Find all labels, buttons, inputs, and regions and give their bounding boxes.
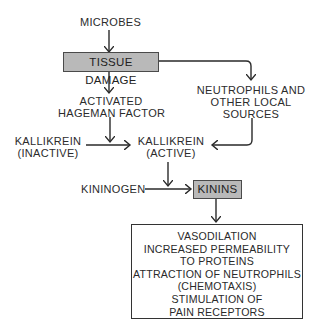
arrow-tissue-neutrophils: [157, 61, 251, 80]
arrow-neutrophils-kallikrein: [212, 118, 252, 145]
effect-permeability-cont: TO PROTEINS: [132, 255, 302, 268]
node-kallikrein-active: KALLIKREIN (ACTIVE): [135, 135, 207, 159]
node-neutrophils-local-sources: NEUTROPHILS AND OTHER LOCAL SOURCES: [196, 84, 306, 120]
effect-chemotaxis: (CHEMOTAXIS): [132, 280, 302, 293]
effect-permeability: INCREASED PERMEABILITY: [132, 243, 302, 256]
effect-vasodilation: VASODILATION: [132, 230, 302, 243]
node-tissue-damage: TISSUE DAMAGE: [63, 52, 159, 72]
effects-box: VASODILATION INCREASED PERMEABILITY TO P…: [131, 224, 303, 319]
effect-attraction: ATTRACTION OF NEUTROPHILS: [132, 268, 302, 281]
node-activated-hageman-factor: ACTIVATED HAGEMAN FACTOR: [58, 95, 164, 119]
node-kinins: KININS: [193, 180, 242, 199]
effect-stimulation: STIMULATION OF: [132, 293, 302, 306]
node-kininogen: KININOGEN: [81, 183, 145, 195]
effect-pain-receptors: PAIN RECEPTORS: [132, 306, 302, 319]
node-kallikrein-inactive: KALLIKREIN (INACTIVE): [12, 135, 84, 159]
node-microbes: MICROBES: [80, 16, 141, 28]
